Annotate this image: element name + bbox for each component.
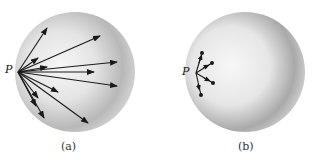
panel-b <box>185 12 305 132</box>
figure-canvas <box>0 0 313 160</box>
caption-b: (b) <box>238 140 254 153</box>
sphere-b <box>185 12 305 132</box>
point-p-label-b: P <box>182 65 189 78</box>
caption-a: (a) <box>61 140 76 153</box>
panel-a <box>15 12 135 132</box>
point-p-label-a: P <box>5 63 12 76</box>
